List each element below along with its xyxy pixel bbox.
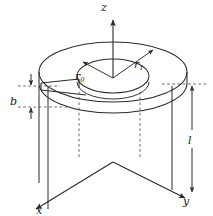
axis-group <box>36 20 185 209</box>
y-axis-line <box>113 162 185 198</box>
annular-disk-diagram: z y x r0 r1 b l <box>0 0 213 216</box>
slot-upper-edge <box>41 79 79 83</box>
r-inner-arrow <box>83 62 113 78</box>
radius-outer-subscript: 1 <box>139 64 143 72</box>
extension-lines <box>39 86 172 209</box>
length-label: l <box>188 135 192 146</box>
axis-label-z: z <box>101 2 107 13</box>
diagram-canvas <box>0 0 213 216</box>
r-outer-arrow <box>113 50 153 78</box>
outer-bottom-arc <box>39 83 187 113</box>
projection-lines <box>18 84 208 158</box>
radius-outer-label: r1 <box>134 59 144 72</box>
thickness-label: b <box>10 96 17 107</box>
axis-label-x: x <box>36 205 42 216</box>
inner-bottom-arc <box>77 82 149 99</box>
radius-inner-subscript: 0 <box>80 76 84 84</box>
radius-inner-label: r0 <box>75 71 85 84</box>
axis-label-y: y <box>183 196 189 207</box>
